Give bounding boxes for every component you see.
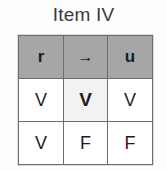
truth-table-figure: Item IV r → u V V V V F F [0, 0, 167, 171]
cell-row1-col3: V [108, 79, 153, 122]
header-cell-antecedent: r [19, 36, 64, 79]
header-cell-consequent: u [108, 36, 153, 79]
cell-row2-col3: F [108, 122, 153, 165]
figure-title: Item IV [0, 2, 167, 28]
cell-row1-col1: V [19, 79, 64, 122]
cell-row1-col2-main: V [64, 79, 108, 122]
table-row: V F F [19, 122, 153, 165]
table-header-row: r → u [19, 36, 153, 79]
right-arrow-icon: → [64, 36, 108, 79]
table-row: V V V [19, 79, 153, 122]
cell-row2-col2-main: F [64, 122, 108, 165]
cell-row2-col1: V [19, 122, 64, 165]
truth-table: r → u V V V V F F [18, 35, 153, 165]
